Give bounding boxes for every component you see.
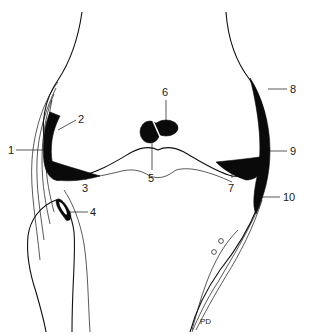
artist-signature: PD [200,317,211,326]
lateral-meniscus [48,160,100,181]
label-6: 6 [162,86,168,98]
knee-joint-diagram: 1 2 3 4 5 6 7 8 9 10 PD [0,0,309,335]
fibula-outline [27,200,56,332]
label-8: 8 [290,83,296,95]
label-5: 5 [148,172,154,184]
label-10: 10 [283,191,295,203]
femur-outline [43,12,267,176]
cruciate-ligament-6 [154,120,178,136]
fibula-inner-outline [56,200,75,332]
label-4: 4 [90,206,96,218]
medial-collateral-black [250,78,270,214]
label-3: 3 [82,182,88,194]
label-2: 2 [78,113,84,125]
capsule-fiber [192,230,238,330]
knee-illustration: 1 2 3 4 5 6 7 8 9 10 PD [0,0,309,335]
label-7: 7 [228,182,234,194]
small-circle-marker [212,250,217,255]
label-1: 1 [8,144,14,156]
leader-line-2 [58,120,76,130]
small-circle-marker [219,239,224,244]
label-9: 9 [290,145,296,157]
